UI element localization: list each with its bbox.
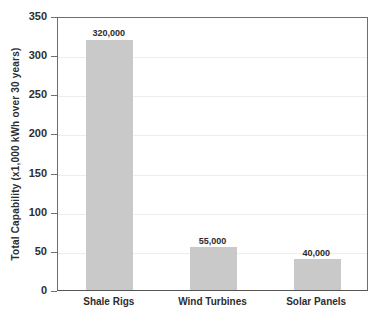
y-tick-mark — [51, 134, 57, 135]
y-tick-label: 300 — [7, 50, 47, 61]
y-tick-label: 350 — [7, 11, 47, 22]
x-category-label: Solar Panels — [261, 296, 371, 308]
x-category-label: Wind Turbines — [158, 296, 268, 308]
x-category-label: Shale Rigs — [54, 296, 164, 308]
y-tick-mark — [51, 17, 57, 18]
y-tick-label: 50 — [7, 246, 47, 257]
y-tick-mark — [51, 174, 57, 175]
y-tick-mark — [51, 252, 57, 253]
bar-chart: Total Capability (x1,000 kWh over 30 yea… — [0, 0, 383, 324]
y-tick-label: 150 — [7, 168, 47, 179]
y-tick-mark — [51, 213, 57, 214]
y-tick-label: 100 — [7, 207, 47, 218]
y-tick-label: 200 — [7, 128, 47, 139]
y-tick-mark — [51, 56, 57, 57]
y-tick-mark — [51, 95, 57, 96]
bar-value-label: 55,000 — [173, 236, 253, 246]
bar[interactable] — [294, 259, 341, 290]
y-tick-label: 0 — [7, 285, 47, 296]
bar[interactable] — [86, 40, 133, 291]
bar[interactable] — [190, 247, 237, 290]
bar-value-label: 40,000 — [276, 248, 356, 258]
y-tick-mark — [51, 291, 57, 292]
bar-value-label: 320,000 — [69, 28, 149, 38]
y-tick-label: 250 — [7, 89, 47, 100]
